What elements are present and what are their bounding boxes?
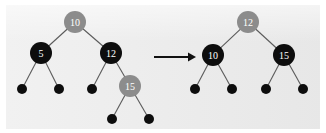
tree-edge xyxy=(45,62,57,85)
nil-leaf-node xyxy=(17,84,27,94)
node-label: 15 xyxy=(279,50,289,61)
nil-leaf-node xyxy=(298,84,308,94)
nil-leaf-node xyxy=(54,84,64,94)
before-node-5: 5 xyxy=(30,42,52,64)
tree-edge xyxy=(83,29,104,47)
right-tree-leaves xyxy=(190,84,308,94)
tree-edge xyxy=(289,64,301,86)
tree-edge xyxy=(48,29,67,47)
before-node-10: 10 xyxy=(64,11,86,33)
node-label: 10 xyxy=(208,50,218,61)
tree-edge xyxy=(197,64,208,86)
nil-leaf-node xyxy=(144,114,154,124)
rb-tree-rotation-figure: 1051215 121015 xyxy=(0,0,326,133)
left-tree-edges xyxy=(24,29,147,116)
tree-edge xyxy=(94,62,106,86)
node-label: 5 xyxy=(39,48,44,59)
nil-leaf-node xyxy=(107,114,117,124)
transformation-arrow-icon xyxy=(154,53,196,62)
node-label: 12 xyxy=(243,17,253,28)
tree-edge xyxy=(135,95,147,116)
before-node-12: 12 xyxy=(100,42,122,64)
nil-leaf-node xyxy=(261,84,271,94)
node-label: 15 xyxy=(125,81,135,92)
tree-edge xyxy=(268,64,279,86)
after-node-12: 12 xyxy=(237,11,259,33)
tree-edge xyxy=(24,62,36,86)
before-node-15: 15 xyxy=(119,75,141,97)
tree-edge xyxy=(220,29,240,48)
nil-leaf-node xyxy=(87,84,97,94)
node-label: 12 xyxy=(106,48,116,59)
tree-diagram-svg: 1051215 121015 xyxy=(0,0,326,133)
left-tree-nodes: 1051215 xyxy=(30,11,141,97)
nil-leaf-node xyxy=(190,84,200,94)
node-label: 10 xyxy=(70,17,80,28)
nil-leaf-node xyxy=(227,84,237,94)
tree-edge xyxy=(116,62,125,78)
tree-edge xyxy=(114,95,125,116)
right-tree-nodes: 121015 xyxy=(202,11,295,66)
tree-edge xyxy=(255,29,276,48)
arrow-head xyxy=(188,53,196,62)
after-node-15: 15 xyxy=(273,44,295,66)
tree-edge xyxy=(218,64,230,86)
after-node-10: 10 xyxy=(202,44,224,66)
